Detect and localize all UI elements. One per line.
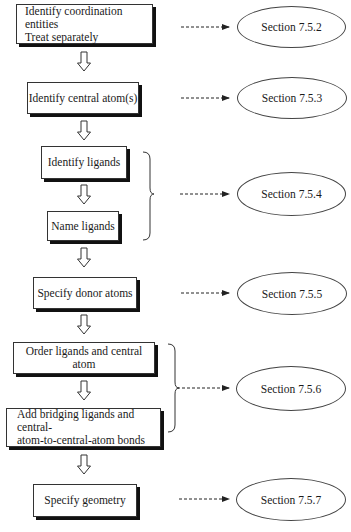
step-label: Identify central atom(s) [29,92,138,105]
brace-icon [143,152,154,240]
brace-icon [168,344,179,432]
step-label: Treat separately [25,31,152,44]
down-arrow-icon [78,455,91,474]
step-add-bridging-ligands: Add bridging ligands and central- atom-t… [6,408,161,447]
step-label: Add bridging ligands and central- [17,408,160,434]
section-7-5-4: Section 7.5.4 [237,172,346,216]
section-label: Section 7.5.6 [261,383,321,395]
section-label: Section 7.5.5 [262,288,322,300]
step-label: atom-to-central-atom bonds [17,434,160,447]
section-label: Section 7.5.2 [261,21,321,33]
section-7-5-6: Section 7.5.6 [236,366,346,411]
down-arrow-icon [78,381,91,400]
step-label: Identify ligands [48,156,121,169]
step-label: Specify donor atoms [37,287,132,300]
step-identify-coordination-entities: Identify coordination entities Treat sep… [16,4,153,44]
step-identify-ligands: Identify ligands [41,146,127,179]
step-identify-central-atoms: Identify central atom(s) [27,82,139,114]
section-label: Section 7.5.3 [262,92,322,104]
down-arrow-icon [78,248,91,267]
down-arrow-icon [78,185,91,204]
step-label: Name ligands [51,220,115,233]
step-label: Identify coordination entities [25,5,152,31]
section-label: Section 7.5.4 [261,188,321,200]
step-name-ligands: Name ligands [47,211,119,241]
step-specify-geometry: Specify geometry [33,484,137,517]
section-7-5-5: Section 7.5.5 [237,272,347,315]
step-label: Order ligands and central atom [14,345,154,371]
down-arrow-icon [78,121,91,140]
step-label: Specify geometry [44,494,125,507]
section-label: Section 7.5.7 [261,494,321,506]
down-arrow-icon [78,52,91,71]
section-7-5-7: Section 7.5.7 [236,478,346,521]
step-specify-donor-atoms: Specify donor atoms [33,277,137,309]
section-7-5-3: Section 7.5.3 [237,77,347,119]
down-arrow-icon [78,315,91,334]
section-7-5-2: Section 7.5.2 [237,6,346,48]
step-order-ligands-central-atom: Order ligands and central atom [13,342,155,374]
